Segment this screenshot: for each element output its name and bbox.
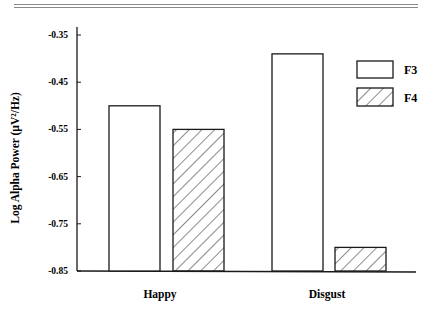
y-tick-label: -0.45 [48, 77, 68, 87]
y-tick-label: -0.85 [48, 266, 68, 276]
legend-label-f4: F4 [404, 91, 417, 105]
legend: F3 F4 [357, 61, 417, 106]
y-axis-label: Log Alpha Power (µV²/Hz) [9, 92, 22, 224]
y-tick-label: -0.75 [48, 219, 68, 229]
legend-swatch-f3 [357, 61, 393, 78]
bars [109, 54, 386, 271]
y-tick-label: -0.55 [48, 124, 68, 134]
y-tick-label: -0.65 [48, 172, 68, 182]
bar-happy-f4 [173, 129, 224, 271]
category-label-disgust: Disgust [309, 288, 346, 301]
bar-happy-f3 [109, 106, 160, 271]
category-label-happy: Happy [143, 288, 176, 301]
bar-chart: Log Alpha Power (µV²/Hz) -0.35-0.45-0.55… [0, 0, 431, 313]
legend-label-f3: F3 [404, 63, 417, 77]
y-ticks: -0.35-0.45-0.55-0.65-0.75-0.85 [48, 30, 81, 276]
bar-disgust-f3 [272, 54, 323, 271]
y-tick-label: -0.35 [48, 30, 68, 40]
bar-disgust-f4 [335, 247, 386, 271]
legend-swatch-f4 [357, 88, 393, 106]
